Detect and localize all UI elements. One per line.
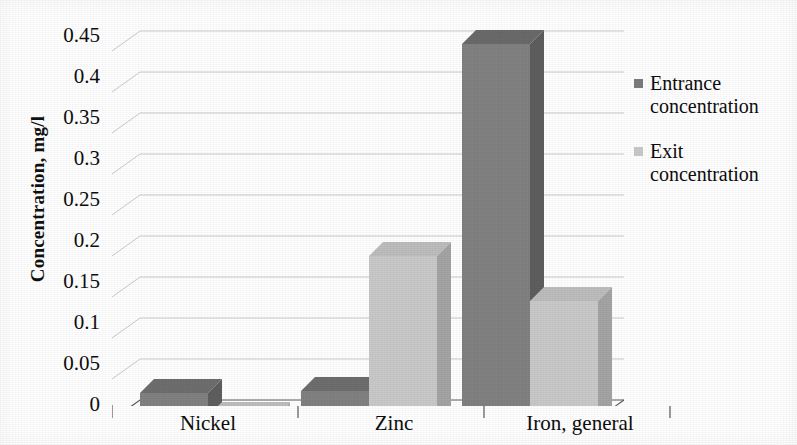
legend-label-entrance: Entrance concentration (650, 72, 786, 118)
y-tick-label: 0.05 (63, 353, 100, 374)
legend-item-exit: Exit concentration (634, 140, 794, 186)
legend-label-exit: Exit concentration (650, 140, 786, 186)
legend-item-entrance: Entrance concentration (634, 72, 794, 118)
legend-label-exit-line1: Exit (650, 140, 683, 162)
y-tick-label: 0.25 (63, 189, 100, 210)
y-tick-label: 0.45 (63, 25, 100, 46)
exit-swatch-icon (634, 147, 643, 156)
x-tick-label-nickel: Nickel (120, 412, 296, 434)
y-tick-label: 0.15 (63, 271, 100, 292)
y-tick-label: 0.4 (74, 66, 100, 87)
legend: Entrance concentration Exit concentratio… (634, 72, 794, 208)
x-tick-label-iron: Iron, general (492, 412, 668, 434)
legend-label-entrance-line1: Entrance (650, 72, 721, 94)
x-axis: Nickel Zinc Iron, general (112, 0, 672, 445)
bar-chart: Concentration, mg/l 0.45 0.4 0.35 0.3 0.… (0, 0, 797, 445)
legend-label-entrance-line2: concentration (650, 95, 759, 117)
y-tick-label: 0.2 (74, 230, 100, 251)
y-tick-label: 0.3 (74, 148, 100, 169)
y-tick-label: 0 (90, 394, 101, 415)
y-axis-tick-labels: 0.45 0.4 0.35 0.3 0.25 0.2 0.15 0.1 0.05… (0, 0, 108, 445)
y-tick-label: 0.1 (74, 312, 100, 333)
legend-label-exit-line2: concentration (650, 163, 759, 185)
y-tick-label: 0.35 (63, 107, 100, 128)
x-tick-label-zinc: Zinc (306, 412, 482, 434)
entrance-swatch-icon (634, 79, 643, 88)
